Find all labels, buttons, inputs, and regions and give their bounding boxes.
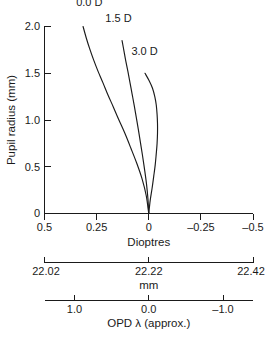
- x-axis-dioptres-ticks: [45, 214, 254, 220]
- y-tick-label-0-5: 0.5: [25, 161, 40, 173]
- y-tick-label-1-0: 1.0: [25, 114, 40, 126]
- y-axis-title: Pupil radius (mm): [5, 75, 17, 165]
- x-tick-label-d-neg-0-25: –0.25: [187, 221, 215, 233]
- x-tick-label-d-0-25: 0.25: [86, 221, 107, 233]
- x-tick-label-opd-neg-1-0: –1.0: [212, 303, 233, 315]
- x-tick-label-d-0-5: 0.5: [37, 221, 52, 233]
- x-axis-mm-ticks: [45, 257, 254, 263]
- x-tick-label-mm-22-02: 22.02: [32, 265, 60, 277]
- x-axis-dioptres-tick-labels: 0.5 0.25 0 –0.25 –0.5: [37, 221, 264, 233]
- x-axis-mm-group: 22.02 22.22 22.42 mm: [32, 257, 265, 292]
- x-axis-opd-tick-labels: 1.0 0.0 –1.0: [67, 303, 234, 315]
- x-tick-label-mm-22-22: 22.22: [135, 265, 163, 277]
- y-tick-label-1-5: 1.5: [25, 67, 40, 79]
- curve-label-3-0-d: 3.0 D: [131, 45, 157, 57]
- x-axis-mm-title: mm: [139, 279, 158, 291]
- curve-label-1-5-d: 1.5 D: [105, 12, 131, 24]
- aberration-chart-figure: 2.0 1.5 1.0 0.5 0 Pupil radius (mm) 0.0 …: [0, 0, 268, 340]
- chart-svg: 2.0 1.5 1.0 0.5 0 Pupil radius (mm) 0.0 …: [0, 0, 268, 340]
- curve-labels-group: 0.0 D 1.5 D 3.0 D: [76, 0, 158, 57]
- x-axis-dioptres-group: 0.5 0.25 0 –0.25 –0.5 Dioptres: [37, 214, 264, 249]
- x-axis-opd-title: OPD λ (approx.): [107, 317, 190, 329]
- y-axis-group: 2.0 1.5 1.0 0.5 0 Pupil radius (mm): [5, 20, 51, 219]
- y-tick-label-0: 0: [34, 207, 40, 219]
- x-axis-dioptres-title: Dioptres: [127, 236, 170, 248]
- y-axis-ticks: [45, 27, 51, 214]
- x-axis-opd-group: 1.0 0.0 –1.0 OPD λ (approx.): [45, 295, 254, 330]
- y-axis-tick-labels: 2.0 1.5 1.0 0.5 0: [25, 20, 40, 219]
- y-tick-label-2-0: 2.0: [25, 20, 40, 32]
- x-axis-opd-ticks: [75, 295, 224, 301]
- x-tick-label-opd-0-0: 0.0: [141, 303, 156, 315]
- x-tick-label-opd-1-0: 1.0: [67, 303, 82, 315]
- curve-label-0-0-d: 0.0 D: [76, 0, 102, 8]
- x-tick-label-d-0: 0: [146, 221, 152, 233]
- x-tick-label-mm-22-42: 22.42: [237, 265, 265, 277]
- x-axis-mm-tick-labels: 22.02 22.22 22.42: [32, 265, 265, 277]
- x-tick-label-d-neg-0-5: –0.5: [242, 221, 263, 233]
